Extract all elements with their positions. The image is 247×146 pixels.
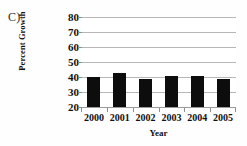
bar bbox=[139, 79, 152, 108]
bar bbox=[87, 77, 100, 107]
y-tick-mark bbox=[78, 47, 82, 48]
x-tick-label: 2000 bbox=[84, 112, 104, 124]
chart-figure: C) Percent Growth 20304050607080 2000200… bbox=[0, 0, 247, 146]
bar bbox=[217, 79, 230, 108]
bar bbox=[113, 73, 126, 108]
y-tick-mark bbox=[78, 107, 82, 108]
y-axis-title: Percent Growth bbox=[17, 1, 27, 81]
x-tick-label: 2003 bbox=[161, 112, 181, 124]
x-tick-label: 2005 bbox=[213, 112, 233, 124]
x-tick-label: 2004 bbox=[187, 112, 207, 124]
y-tick-mark bbox=[78, 92, 82, 93]
y-tick-mark bbox=[78, 32, 82, 33]
y-tick-mark bbox=[78, 62, 82, 63]
bar bbox=[165, 76, 178, 107]
y-tick-mark bbox=[78, 77, 82, 78]
bar bbox=[191, 76, 204, 107]
y-axis-tick-labels: 20304050607080 bbox=[57, 17, 79, 107]
x-tick-label: 2001 bbox=[110, 112, 130, 124]
y-tick-mark bbox=[78, 17, 82, 18]
plot-area bbox=[81, 17, 236, 107]
x-axis-tick-labels: 200020012002200320042005 bbox=[81, 112, 236, 126]
x-tick-label: 2002 bbox=[136, 112, 156, 124]
bar-series bbox=[81, 17, 236, 107]
x-axis-title: Year bbox=[81, 128, 236, 138]
